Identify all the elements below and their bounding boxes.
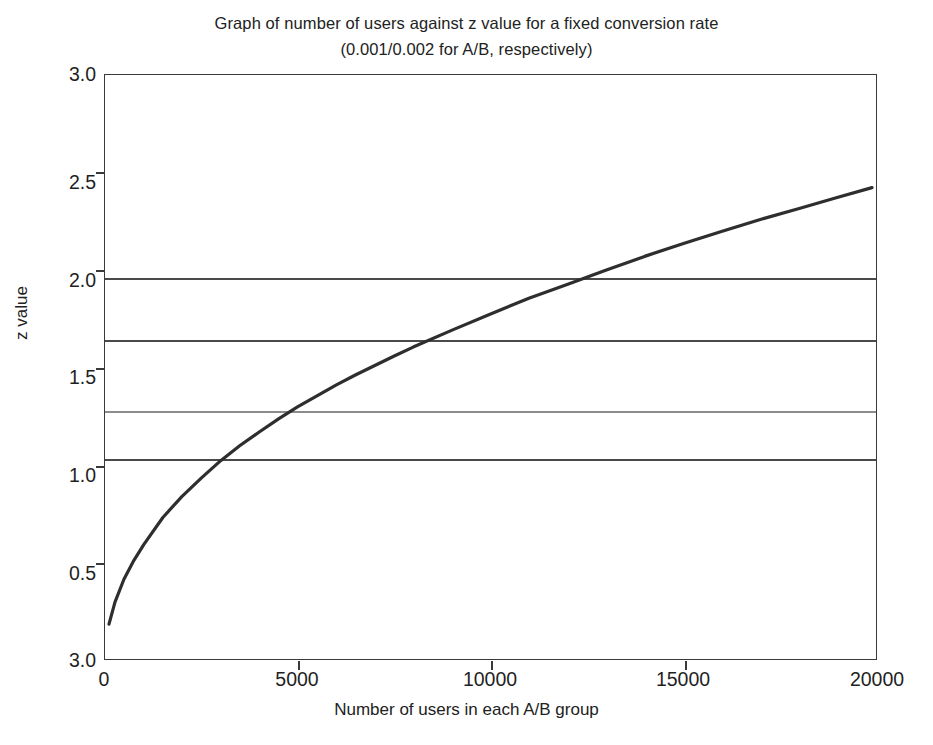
xtick-5000 [298,661,300,670]
xtick-label-20000: 20000 [850,668,904,691]
chart-title-line-2: (0.001/0.002 for A/B, respectively) [0,36,933,62]
chart-title: Graph of number of users against z value… [0,10,933,62]
ytick-label-0.5: 0.5 [40,562,96,585]
ytick-2.5 [96,172,105,174]
xtick-10000 [491,661,493,670]
xtick-label-10000: 10000 [463,668,517,691]
ytick-2.0 [96,270,105,272]
chart-figure: Graph of number of users against z value… [0,0,933,745]
ytick-label-2.0: 2.0 [40,269,96,292]
xtick-label-0: 0 [99,668,110,691]
y-axis-title: z value [12,286,32,340]
ytick-label-1.0: 1.0 [40,464,96,487]
z-value-curve [105,75,876,659]
xtick-label-15000: 15000 [656,668,710,691]
ytick-1.5 [96,368,105,370]
plot-area [104,74,877,660]
xtick-15000 [685,661,687,670]
z-value-curve-path [109,188,872,625]
ytick-0.5 [96,563,105,565]
x-axis-title: Number of users in each A/B group [0,700,933,720]
ytick-label-3.0-top: 3.0 [40,63,96,86]
ytick-label-1.5: 1.5 [40,366,96,389]
ytick-label-2.5: 2.5 [40,171,96,194]
xtick-label-5000: 5000 [275,668,318,691]
chart-title-line-1: Graph of number of users against z value… [0,10,933,36]
ytick-1.0 [96,466,105,468]
ytick-label-0.0-bottom: 3.0 [40,649,96,672]
